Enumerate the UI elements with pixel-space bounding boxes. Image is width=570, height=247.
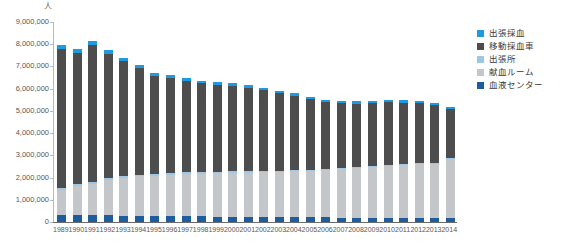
- legend-swatch-icon: [477, 69, 484, 76]
- stacked-bar[interactable]: [352, 101, 361, 222]
- bar-segment: [150, 216, 159, 222]
- bar-segment: [88, 215, 97, 222]
- stacked-bar[interactable]: [290, 93, 299, 222]
- bar-column[interactable]: [334, 22, 350, 222]
- bar-column[interactable]: [318, 22, 334, 222]
- bar-segment: [259, 217, 268, 222]
- bar-column[interactable]: [240, 22, 256, 222]
- bar-column[interactable]: [54, 22, 70, 222]
- bar-segment: [259, 90, 268, 170]
- stacked-bar[interactable]: [446, 107, 455, 222]
- bar-column[interactable]: [256, 22, 272, 222]
- bar-segment: [415, 103, 424, 163]
- stacked-bar[interactable]: [384, 100, 393, 222]
- stacked-bar[interactable]: [368, 101, 377, 222]
- legend-item[interactable]: 移動採血車: [477, 40, 569, 52]
- stacked-bar[interactable]: [306, 97, 315, 222]
- stacked-bar[interactable]: [244, 85, 253, 222]
- stacked-bar[interactable]: [321, 100, 330, 222]
- stacked-bar[interactable]: [135, 65, 144, 222]
- bar-segment: [197, 83, 206, 171]
- bar-segment: [321, 170, 330, 217]
- legend-item[interactable]: 出張採血: [477, 27, 569, 39]
- legend-item-label: 血液センター: [489, 80, 543, 90]
- legend-item[interactable]: 出張所: [477, 53, 569, 65]
- stacked-bar[interactable]: [337, 101, 346, 222]
- bar-segment: [430, 105, 439, 163]
- bar-column[interactable]: [116, 22, 132, 222]
- bar-segment: [88, 184, 97, 216]
- y-axis-tick-mark: [50, 133, 53, 134]
- bar-column[interactable]: [442, 22, 458, 222]
- bar-column[interactable]: [132, 22, 148, 222]
- bar-column[interactable]: [194, 22, 210, 222]
- bar-segment: [275, 91, 284, 93]
- x-axis-tick-label: 1995: [146, 225, 162, 235]
- stacked-bar[interactable]: [415, 101, 424, 222]
- stacked-bar[interactable]: [430, 103, 439, 222]
- bar-segment: [399, 100, 408, 102]
- bar-column[interactable]: [303, 22, 319, 222]
- bar-segment: [337, 168, 346, 169]
- bar-column[interactable]: [85, 22, 101, 222]
- bar-column[interactable]: [209, 22, 225, 222]
- bar-column[interactable]: [272, 22, 288, 222]
- stacked-bar[interactable]: [275, 91, 284, 222]
- bar-segment: [182, 78, 191, 81]
- bar-segment: [352, 101, 361, 103]
- bar-column[interactable]: [349, 22, 365, 222]
- stacked-bar[interactable]: [57, 45, 66, 222]
- x-axis-tick-label: 2004: [286, 225, 302, 235]
- bar-segment: [384, 166, 393, 218]
- bar-segment: [446, 109, 455, 159]
- bar-segment: [213, 85, 222, 172]
- bar-column[interactable]: [163, 22, 179, 222]
- bar-column[interactable]: [427, 22, 443, 222]
- stacked-bar[interactable]: [399, 100, 408, 222]
- bar-segment: [306, 171, 315, 217]
- bar-column[interactable]: [365, 22, 381, 222]
- bar-segment: [228, 83, 237, 86]
- bar-segment: [430, 103, 439, 105]
- bar-segment: [337, 169, 346, 217]
- stacked-bar[interactable]: [259, 88, 268, 222]
- bar-segment: [337, 218, 346, 222]
- bar-column[interactable]: [411, 22, 427, 222]
- bar-column[interactable]: [101, 22, 117, 222]
- bar-column[interactable]: [396, 22, 412, 222]
- bar-series-container: [54, 22, 457, 222]
- bar-segment: [104, 54, 113, 178]
- bar-segment: [368, 101, 377, 103]
- stacked-bar[interactable]: [104, 50, 113, 222]
- x-axis-tick-label: 2005: [302, 225, 318, 235]
- stacked-bar[interactable]: [119, 58, 128, 222]
- bar-column[interactable]: [380, 22, 396, 222]
- stacked-bar[interactable]: [197, 81, 206, 222]
- x-axis-tick-label: 1996: [162, 225, 178, 235]
- bar-column[interactable]: [225, 22, 241, 222]
- legend-item[interactable]: 血液センター: [477, 79, 569, 91]
- bar-column[interactable]: [70, 22, 86, 222]
- stacked-bar[interactable]: [166, 75, 175, 222]
- stacked-bar[interactable]: [228, 83, 237, 222]
- bar-column[interactable]: [287, 22, 303, 222]
- stacked-bar[interactable]: [182, 78, 191, 222]
- legend-item[interactable]: 献血ルーム: [477, 66, 569, 78]
- bar-segment: [275, 171, 284, 172]
- x-axis-tick-label: 2012: [410, 225, 426, 235]
- y-axis-tick-mark: [50, 111, 53, 112]
- bar-segment: [88, 45, 97, 182]
- bar-segment: [368, 218, 377, 222]
- y-axis-tick-label: 1,000,000: [16, 196, 49, 204]
- bar-segment: [182, 174, 191, 216]
- bar-column[interactable]: [178, 22, 194, 222]
- stacked-bar[interactable]: [213, 82, 222, 222]
- stacked-bar[interactable]: [88, 41, 97, 222]
- bar-column[interactable]: [147, 22, 163, 222]
- bar-segment: [337, 101, 346, 103]
- bar-segment: [73, 215, 82, 222]
- stacked-bar[interactable]: [150, 73, 159, 222]
- stacked-bar[interactable]: [73, 49, 82, 222]
- y-axis-tick-mark: [50, 66, 53, 67]
- bar-segment: [73, 184, 82, 186]
